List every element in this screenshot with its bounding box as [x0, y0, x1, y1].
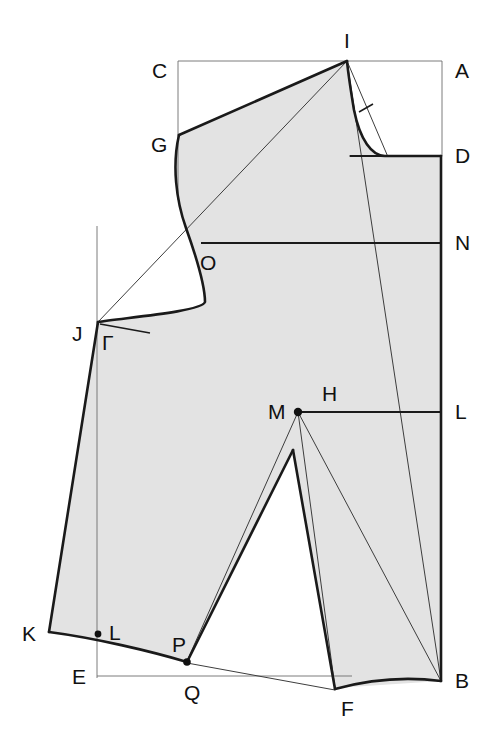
pattern-diagram-root: A B C D E F G H I J K L L M N O P Q Γ	[0, 0, 493, 741]
label-D: D	[455, 144, 470, 167]
label-C: C	[152, 59, 167, 82]
label-Q: Q	[184, 681, 200, 704]
label-K: K	[22, 622, 36, 645]
hem-guide-line-P-to-F	[187, 663, 335, 690]
label-N: N	[455, 231, 470, 254]
label-E: E	[72, 665, 86, 688]
label-J: J	[72, 322, 83, 345]
label-H: H	[322, 382, 337, 405]
label-L-right: L	[455, 400, 467, 423]
label-A: A	[455, 59, 469, 82]
label-F: F	[341, 697, 354, 720]
label-O: O	[200, 251, 216, 274]
label-B: B	[455, 669, 469, 692]
label-P: P	[172, 633, 186, 656]
label-G: G	[151, 133, 167, 156]
point-dot-M	[294, 408, 302, 416]
label-M: M	[268, 400, 286, 423]
label-right-angle-gamma: Γ	[102, 331, 114, 354]
point-dot-L-hem	[95, 631, 102, 638]
label-L-hem: L	[109, 621, 121, 644]
pattern-drawing-canvas: A B C D E F G H I J K L L M N O P Q Γ	[0, 0, 493, 741]
label-I: I	[344, 29, 350, 52]
point-dot-P	[183, 658, 191, 666]
